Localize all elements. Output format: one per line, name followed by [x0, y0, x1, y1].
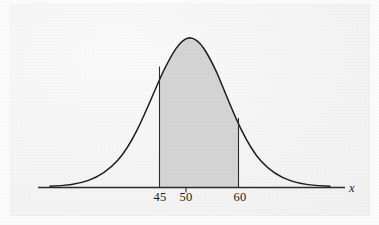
tick-label-45: 45 — [154, 190, 167, 205]
shaded-area-45-to-60 — [50, 38, 330, 187]
tick-label-50: 50 — [180, 190, 193, 205]
x-axis-label: x — [349, 181, 355, 196]
figure-container: 45 50 60 x — [0, 0, 379, 225]
tick-label-60: 60 — [234, 190, 247, 205]
